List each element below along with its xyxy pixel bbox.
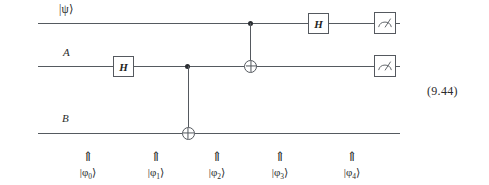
- up-arrow-icon: ⇑: [65, 150, 111, 163]
- step-state-label-4: |φ4⟩: [329, 166, 375, 180]
- a-wire-line: [38, 66, 400, 67]
- b-wire-line: [38, 133, 400, 134]
- equation-number: (9.44): [427, 84, 458, 99]
- quantum-circuit-figure: |ψ⟩ A B H H ⇑ |φ0⟩ ⇑ |φ1⟩ ⇑ |φ2⟩ ⇑ |φ: [0, 0, 489, 185]
- cnot-link-a-b: [188, 66, 189, 128]
- up-arrow-icon: ⇑: [329, 150, 375, 163]
- step-marker-3: ⇑ |φ3⟩: [257, 150, 303, 180]
- hadamard-gate-psi[interactable]: H: [308, 13, 329, 34]
- psi-wire-line: [38, 23, 400, 24]
- step-marker-2: ⇑ |φ2⟩: [194, 150, 240, 180]
- measurement-gate-a[interactable]: [374, 55, 396, 77]
- up-arrow-icon: ⇑: [257, 150, 303, 163]
- up-arrow-icon: ⇑: [133, 150, 179, 163]
- up-arrow-icon: ⇑: [194, 150, 240, 163]
- step-marker-0: ⇑ |φ0⟩: [65, 150, 111, 180]
- step-state-label-1: |φ1⟩: [133, 166, 179, 180]
- cnot-target-b: [182, 127, 195, 140]
- step-state-label-2: |φ2⟩: [194, 166, 240, 180]
- step-state-label-3: |φ3⟩: [257, 166, 303, 180]
- cnot-link-psi-a: [250, 23, 251, 61]
- step-marker-4: ⇑ |φ4⟩: [329, 150, 375, 180]
- measurement-meter-icon: [375, 13, 395, 33]
- step-state-label-0: |φ0⟩: [65, 166, 111, 180]
- psi-wire-label: |ψ⟩: [59, 2, 74, 16]
- a-wire-label: A: [63, 46, 70, 58]
- hadamard-gate-a[interactable]: H: [113, 56, 134, 77]
- measurement-gate-psi[interactable]: [374, 12, 396, 34]
- measurement-meter-icon: [375, 56, 395, 76]
- cnot-target-a: [244, 60, 257, 73]
- b-wire-label: B: [62, 112, 69, 124]
- step-marker-1: ⇑ |φ1⟩: [133, 150, 179, 180]
